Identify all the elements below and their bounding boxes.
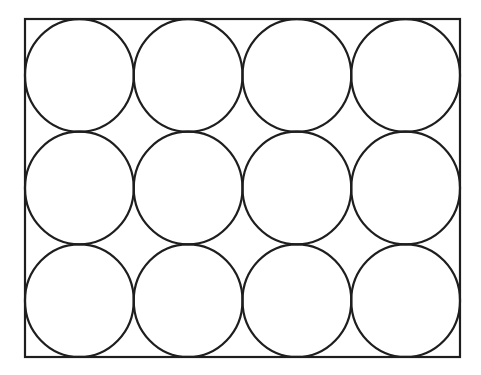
circle-r2-c1 xyxy=(25,132,134,245)
circle-r1-c4 xyxy=(351,19,460,132)
circle-r1-c2 xyxy=(134,19,243,132)
circle-grid xyxy=(25,19,460,357)
circle-packing-diagram xyxy=(0,0,481,375)
circle-r1-c3 xyxy=(242,19,351,132)
circle-r2-c4 xyxy=(351,132,460,245)
circle-r1-c1 xyxy=(25,19,134,132)
circle-r2-c3 xyxy=(242,132,351,245)
circle-r3-c4 xyxy=(351,244,460,357)
circle-r3-c2 xyxy=(134,244,243,357)
circle-r2-c2 xyxy=(134,132,243,245)
circle-r3-c1 xyxy=(25,244,134,357)
circle-r3-c3 xyxy=(242,244,351,357)
